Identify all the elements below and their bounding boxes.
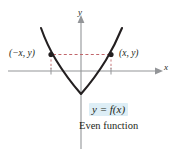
function-equation-label: y = f(x) <box>89 103 128 116</box>
figure-caption: Even function <box>79 121 138 132</box>
y-axis-label: y <box>78 8 82 17</box>
point-label-positive-x: (x, y) <box>119 49 139 59</box>
point-marker-left <box>48 52 53 57</box>
point-label-negative-x: (−x, y) <box>9 49 35 59</box>
x-axis-arrow-icon <box>155 68 163 75</box>
even-function-figure: (−x, y) (x, y) y x y = f(x) Even functio… <box>0 0 174 154</box>
point-marker-right <box>108 52 113 57</box>
x-axis-label: x <box>164 63 168 72</box>
